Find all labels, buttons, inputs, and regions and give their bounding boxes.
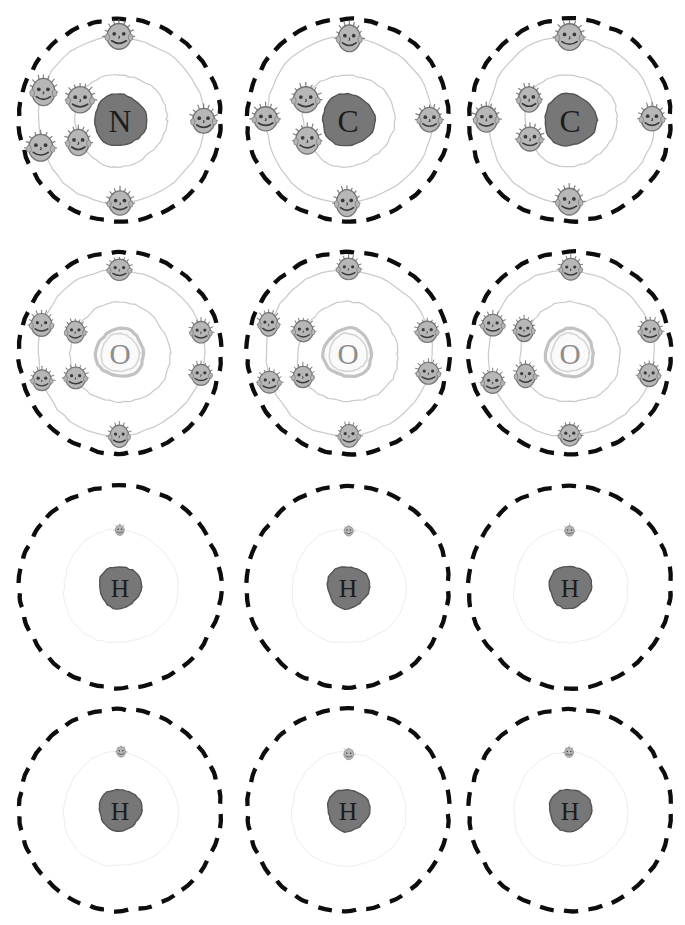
- electron-shell1-1: [564, 524, 575, 537]
- nucleus-symbol-label: O: [337, 338, 358, 370]
- atom-diagram-oxygen-r2c3: O: [455, 238, 685, 468]
- electron-shell2-5: [190, 104, 218, 133]
- electron-shell1-1: [343, 748, 355, 760]
- electron-shell2-4: [103, 20, 135, 50]
- atom-diagram-hydrogen-r3c3: H: [455, 472, 685, 702]
- electron-shell1-1: [515, 123, 544, 151]
- nucleus: C: [323, 93, 376, 145]
- atom-diagram-sheet: NCCOOOHHHHHH: [0, 0, 685, 925]
- electron-shell2-3: [336, 422, 363, 447]
- electron-shell2-2: [553, 184, 585, 215]
- nucleus-symbol-label: H: [111, 574, 129, 603]
- electron-shell2-5: [189, 361, 213, 385]
- electron-shell2-3: [106, 186, 135, 215]
- nucleus: H: [99, 789, 142, 831]
- nucleus-symbol-label: O: [109, 338, 130, 370]
- nucleus: N: [95, 94, 147, 145]
- nucleus-symbol-label: H: [111, 797, 129, 826]
- nucleus-symbol-label: C: [337, 104, 358, 139]
- electron-shell1-2: [291, 318, 316, 342]
- nucleus: O: [545, 328, 593, 377]
- nucleus: H: [100, 567, 142, 609]
- electron-shell2-1: [472, 102, 501, 132]
- atom-diagram-hydrogen-r3c1: H: [5, 472, 235, 702]
- electron-shell2-1: [257, 368, 284, 393]
- electron-shell2-5: [636, 361, 661, 387]
- nucleus: C: [545, 93, 598, 146]
- atom-diagram-oxygen-r2c2: O: [233, 238, 463, 468]
- nucleus: H: [328, 790, 370, 832]
- atom-diagram-nitrogen-r1c1: N: [5, 5, 235, 235]
- electron-shell2-6: [189, 318, 214, 343]
- nucleus-symbol-label: H: [561, 797, 579, 826]
- atom-diagram-hydrogen-r4c1: H: [5, 695, 235, 925]
- nucleus: O: [323, 328, 372, 377]
- nucleus: H: [549, 566, 592, 608]
- atom-diagram-hydrogen-r4c2: H: [233, 695, 463, 925]
- atom-diagram-hydrogen-r3c2: H: [233, 472, 463, 702]
- nucleus-symbol-label: N: [109, 104, 132, 139]
- electron-shell2-2: [479, 310, 505, 336]
- nucleus-symbol-label: O: [559, 338, 580, 370]
- electron-shell1-1: [563, 746, 574, 758]
- electron-shell2-3: [335, 21, 365, 52]
- electron-shell2-2: [28, 310, 54, 336]
- nucleus: H: [327, 567, 370, 610]
- electron-shell2-4: [557, 255, 583, 281]
- electron-shell2-4: [107, 257, 133, 280]
- electron-shell2-3: [553, 21, 585, 51]
- electron-shell1-1: [62, 364, 88, 389]
- nucleus: O: [95, 328, 143, 376]
- electron-shell1-2: [290, 82, 322, 112]
- electron-shell2-2: [30, 75, 58, 106]
- electron-shell1-1: [115, 746, 127, 757]
- nucleus-symbol-label: C: [559, 104, 580, 139]
- electron-shell2-1: [25, 130, 57, 161]
- electron-shell2-3: [107, 421, 132, 447]
- electron-shell1-2: [512, 315, 535, 341]
- electron-shell2-4: [336, 254, 362, 280]
- atom-diagram-oxygen-r2c1: O: [5, 238, 235, 468]
- electron-shell2-4: [415, 104, 443, 132]
- atom-diagram-carbon-r1c3: C: [455, 5, 685, 235]
- electron-shell2-1: [30, 366, 56, 390]
- electron-shell2-2: [257, 310, 280, 337]
- electron-shell1-2: [65, 83, 97, 112]
- electron-shell1-1: [290, 362, 315, 387]
- nucleus: H: [549, 789, 592, 831]
- electron-shell1-2: [516, 83, 543, 112]
- nucleus-symbol-label: H: [561, 574, 579, 603]
- electron-shell2-2: [333, 186, 360, 217]
- electron-shell1-1: [344, 525, 355, 536]
- electron-shell1-1: [292, 123, 322, 154]
- electron-shell2-6: [414, 318, 439, 342]
- electron-shell1-1: [514, 361, 539, 388]
- electron-shell1-1: [114, 524, 125, 536]
- atom-diagram-hydrogen-r4c3: H: [455, 695, 685, 925]
- electron-shell1-2: [64, 319, 87, 343]
- electron-shell2-3: [558, 422, 583, 446]
- electron-shell2-1: [480, 368, 505, 393]
- electron-shell2-5: [415, 359, 441, 385]
- nucleus-symbol-label: H: [339, 574, 357, 603]
- nucleus-symbol-label: H: [339, 797, 357, 826]
- electron-shell2-1: [250, 102, 281, 131]
- electron-shell2-6: [637, 317, 664, 342]
- electron-shell1-1: [65, 125, 93, 156]
- electron-shell2-4: [638, 102, 666, 130]
- atom-diagram-carbon-r1c2: C: [233, 5, 463, 235]
